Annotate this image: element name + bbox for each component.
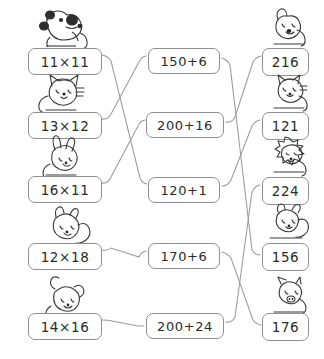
lion-icon [258,134,316,178]
sum-card-120plus1[interactable]: 120+1 [148,177,220,203]
rabbit-icon [28,134,94,180]
expression-card-12x18[interactable]: 12×18 [28,243,102,270]
sum-card-200plus24[interactable]: 200+24 [146,313,224,339]
matching-worksheet: 11×11 13×12 [0,0,324,359]
sum-card-150plus6[interactable]: 150+6 [148,48,220,74]
answer-card-121[interactable]: 121 [262,112,309,140]
cat-icon [28,70,94,116]
expression-card-11x11[interactable]: 11×11 [28,48,102,75]
sum-card-200plus16[interactable]: 200+16 [146,112,224,138]
squirrel-icon [256,200,314,244]
sum-card-170plus6[interactable]: 170+6 [148,243,220,269]
expression-card-14x16[interactable]: 14×16 [28,313,102,340]
dog-with-spots-icon [28,6,94,52]
dog-icon [258,6,316,50]
expression-card-13x12[interactable]: 13×12 [28,112,102,139]
cat-icon [258,70,316,114]
answer-card-224[interactable]: 224 [262,177,309,205]
answer-card-156[interactable]: 156 [262,243,309,271]
pig-icon [258,272,316,316]
answer-card-176[interactable]: 176 [262,313,309,341]
answer-card-216[interactable]: 216 [262,48,309,76]
expression-card-16x11[interactable]: 16×11 [28,176,102,203]
